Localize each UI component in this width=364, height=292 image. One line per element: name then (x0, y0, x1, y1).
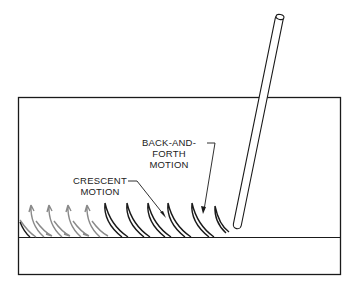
crescent-motion-label: CRESCENT MOTION (72, 175, 128, 197)
back-and-forth-label-line1: BACK-AND-FORTH (130, 137, 208, 159)
crescent-label-line1: CRESCENT (72, 175, 128, 186)
back-and-forth-label-line2: MOTION (130, 159, 208, 170)
workpiece-outline (19, 98, 341, 275)
electrode-rod (233, 14, 285, 230)
crescent-label-line2: MOTION (72, 186, 128, 197)
back-and-forth-motion-label: BACK-AND-FORTH MOTION (130, 137, 208, 170)
gray-motion-arrows (20, 205, 108, 237)
crescent-leader (128, 181, 164, 215)
